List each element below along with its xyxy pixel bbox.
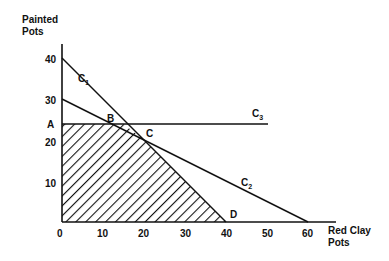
point-label-a: A [47,119,54,130]
x-tick-0: 0 [57,228,63,239]
x-axis-label-line1: Red Clay [328,225,371,236]
x-axis-label-line2: Pots [328,237,350,248]
x-tick-10: 10 [97,228,109,239]
constraint-label-c2: C2 [241,177,252,190]
x-tick-50: 50 [262,228,274,239]
x-tick-20: 20 [138,228,150,239]
y-tick-20: 20 [45,137,57,148]
point-label-b: B [107,113,114,124]
chart-canvas: Painted Pots Red Clay Pots 40 30 20 10 0… [0,0,389,261]
y-axis-label-line2: Pots [22,26,44,37]
y-axis-label-line1: Painted [22,14,58,25]
feasible-region [62,124,226,222]
x-tick-30: 30 [180,228,192,239]
x-tick-40: 40 [221,228,233,239]
x-tick-60: 60 [302,228,314,239]
y-tick-10: 10 [45,178,57,189]
point-label-c: C [146,128,153,139]
point-label-d: D [230,209,237,220]
constraint-label-c3: C3 [252,108,263,121]
constraint-label-c1: C1 [78,73,89,86]
y-tick-40: 40 [45,54,57,65]
y-tick-30: 30 [45,95,57,106]
